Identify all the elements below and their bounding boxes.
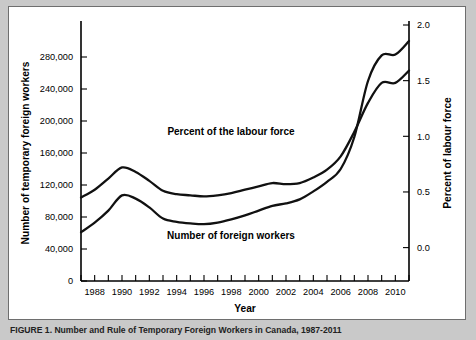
axis-titles: Number of temporary foreign workersPerce… — [20, 61, 453, 314]
figure-panel: 040,00080,000120,000160,000200,000240,00… — [8, 6, 466, 320]
x-axis-tick-label: 1992 — [139, 287, 159, 297]
y-axis-left-tick-label: 240,000 — [40, 84, 73, 94]
x-axis-tick-label: 2004 — [303, 287, 323, 297]
y-axis-left-tick-label: 80,000 — [45, 212, 73, 222]
x-axis-ticks: 1988199019921994199619982000200220042006… — [81, 275, 409, 297]
x-axis-tick-label: 1988 — [84, 287, 104, 297]
chart-axes — [81, 21, 409, 281]
y-axis-left-tick-label: 120,000 — [40, 180, 73, 190]
x-axis-tick-label: 2000 — [248, 287, 268, 297]
y-axis-left-title: Number of temporary foreign workers — [20, 61, 31, 244]
y-axis-left-tick-label: 160,000 — [40, 148, 73, 158]
x-axis-tick-label: 2008 — [358, 287, 378, 297]
y-axis-left-tick-label: 40,000 — [45, 244, 73, 254]
figure-root: 040,00080,000120,000160,000200,000240,00… — [0, 0, 476, 340]
y-axis-left-tick-label: 0 — [68, 276, 73, 286]
x-axis-tick-label: 1996 — [194, 287, 214, 297]
x-axis-tick-label: 2006 — [330, 287, 350, 297]
y-axis-left-tick-label: 280,000 — [40, 52, 73, 62]
x-axis-title: Year — [234, 303, 256, 314]
y-axis-left-ticks: 040,00080,000120,000160,000200,000240,00… — [40, 52, 87, 286]
y-axis-right-tick-label: 2.0 — [417, 20, 430, 30]
y-axis-left-tick-label: 200,000 — [40, 116, 73, 126]
y-axis-right-tick-label: 0.0 — [417, 243, 430, 253]
series-annotation-number: Number of foreign workers — [167, 230, 295, 241]
y-axis-right-tick-label: 0.5 — [417, 187, 430, 197]
x-axis-tick-label: 2010 — [385, 287, 405, 297]
figure-caption: FIGURE 1. Number and Rule of Temporary F… — [10, 325, 470, 335]
x-axis-tick-label: 2002 — [276, 287, 296, 297]
x-axis-tick-label: 1998 — [221, 287, 241, 297]
series-annotation-percent: Percent of the labour force — [167, 126, 295, 137]
y-axis-right-ticks: 0.00.51.01.52.0 — [403, 20, 430, 253]
x-axis-tick-label: 1994 — [166, 287, 186, 297]
x-axis-tick-label: 1990 — [112, 287, 132, 297]
line-chart: 040,00080,000120,000160,000200,000240,00… — [9, 7, 465, 319]
y-axis-right-tick-label: 1.0 — [417, 132, 430, 142]
y-axis-right-tick-label: 1.5 — [417, 76, 430, 86]
y-axis-right-title: Percent of labour force — [442, 97, 453, 209]
